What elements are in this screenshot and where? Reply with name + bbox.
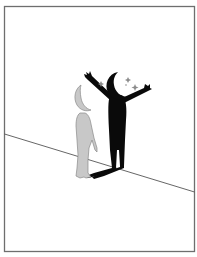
illustration-canvas: [0, 0, 197, 257]
star-dot-icon: [125, 84, 127, 86]
frame: [5, 7, 195, 252]
